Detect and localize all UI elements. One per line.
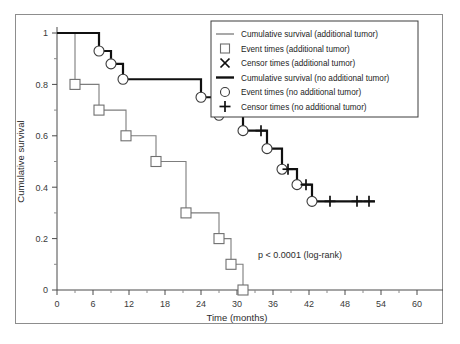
event-marker-additional-tumor bbox=[214, 234, 224, 244]
event-marker-no-additional-tumor bbox=[196, 92, 206, 102]
y-tick-label: 0 bbox=[43, 285, 48, 295]
event-marker-no-additional-tumor bbox=[238, 126, 248, 136]
x-tick-label: 60 bbox=[412, 299, 422, 309]
legend-glyph-circle-icon bbox=[221, 88, 230, 97]
x-axis-title: Time (months) bbox=[207, 312, 268, 323]
y-tick-label: 0.2 bbox=[35, 234, 48, 244]
event-marker-additional-tumor bbox=[238, 285, 248, 295]
x-tick-label: 12 bbox=[124, 299, 134, 309]
event-marker-no-additional-tumor bbox=[94, 46, 104, 56]
y-tick-label: 0.6 bbox=[35, 131, 48, 141]
event-marker-additional-tumor bbox=[94, 105, 104, 115]
legend-label: Censor times (no additional tumor) bbox=[241, 103, 367, 112]
event-marker-additional-tumor bbox=[70, 79, 80, 89]
y-tick-label: 0.4 bbox=[35, 183, 48, 193]
event-marker-additional-tumor bbox=[151, 157, 161, 167]
event-marker-additional-tumor bbox=[226, 259, 236, 269]
legend-glyph-square-icon bbox=[221, 44, 230, 53]
legend-label: Event times (no additional tumor) bbox=[241, 88, 361, 97]
legend-label: Cumulative survival (additional tumor) bbox=[241, 30, 378, 39]
x-tick-label: 24 bbox=[196, 299, 206, 309]
x-tick-label: 48 bbox=[340, 299, 350, 309]
event-marker-no-additional-tumor bbox=[106, 59, 116, 69]
legend-label: Event times (additional tumor) bbox=[241, 45, 350, 54]
event-marker-no-additional-tumor bbox=[307, 196, 317, 206]
x-tick-label: 54 bbox=[376, 299, 386, 309]
kaplan-meier-plot: 0612182430364248546000.20.40.60.81Time (… bbox=[0, 0, 460, 344]
event-marker-additional-tumor bbox=[181, 208, 191, 218]
y-tick-label: 1 bbox=[43, 28, 48, 38]
x-tick-label: 0 bbox=[54, 299, 59, 309]
y-tick-label: 0.8 bbox=[35, 80, 48, 90]
event-marker-no-additional-tumor bbox=[118, 74, 128, 84]
y-axis-title: Cumulative survival bbox=[15, 120, 26, 202]
x-tick-label: 18 bbox=[160, 299, 170, 309]
event-marker-no-additional-tumor bbox=[262, 144, 272, 154]
x-tick-label: 30 bbox=[232, 299, 242, 309]
x-tick-label: 6 bbox=[90, 299, 95, 309]
event-marker-additional-tumor bbox=[121, 131, 131, 141]
legend-label: Cumulative survival (no additional tumor… bbox=[241, 74, 390, 83]
x-tick-label: 42 bbox=[304, 299, 314, 309]
legend-label: Censor times (additional tumor) bbox=[241, 59, 355, 68]
pvalue-annotation: p < 0.0001 (log-rank) bbox=[258, 250, 342, 260]
x-tick-label: 36 bbox=[268, 299, 278, 309]
survival-chart-figure: 0612182430364248546000.20.40.60.81Time (… bbox=[0, 0, 460, 344]
